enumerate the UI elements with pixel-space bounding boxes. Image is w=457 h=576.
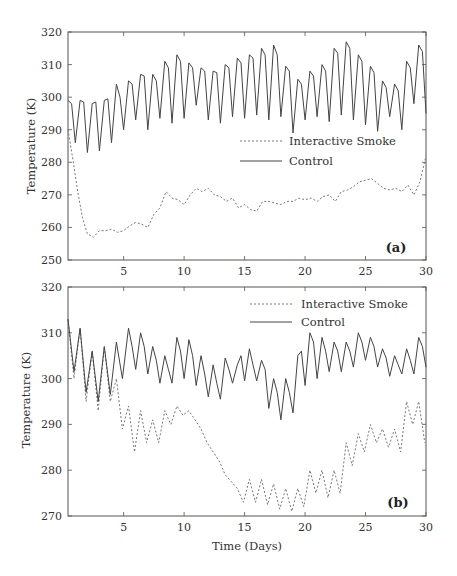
y-tick-label: 270 <box>41 189 62 202</box>
y-tick-label: 320 <box>41 281 62 294</box>
x-tick-label: 10 <box>177 265 191 278</box>
legend-b: Interactive Smoke Control <box>250 297 408 329</box>
y-tick-label: 270 <box>41 510 62 523</box>
y-tick-label: 280 <box>41 156 62 169</box>
legend-label-smoke-a: Interactive Smoke <box>289 134 396 148</box>
x-tick-label: 5 <box>120 265 127 278</box>
x-tick-label: 25 <box>359 521 373 534</box>
x-tick-label: 30 <box>419 521 433 534</box>
legend-label-smoke-b: Interactive Smoke <box>301 297 408 311</box>
x-tick-label: 20 <box>298 521 312 534</box>
panel-a: 250260270280290300310320 51015202530 Tem… <box>24 26 433 278</box>
y-tick-label: 310 <box>41 59 62 72</box>
panel-label-b: (b) <box>387 495 408 510</box>
x-tick-label: 20 <box>298 265 312 278</box>
y-tick-label: 290 <box>41 124 62 137</box>
panel-label-a: (a) <box>386 240 407 255</box>
y-tick-label: 260 <box>41 221 62 234</box>
y-axis-label-b: Temperature (K) <box>19 352 33 449</box>
plot-frame-b <box>68 287 426 516</box>
y-tick-label: 250 <box>41 254 62 267</box>
series-control <box>68 319 426 420</box>
x-tick-label: 15 <box>238 265 252 278</box>
y-tick-label: 290 <box>41 418 62 431</box>
x-tick-label: 15 <box>238 521 252 534</box>
legend-label-control-a: Control <box>289 154 333 168</box>
x-tick-label: 5 <box>120 521 127 534</box>
y-axis-label-a: Temperature (K) <box>24 98 38 195</box>
x-tick-label: 30 <box>419 265 433 278</box>
x-axis-label: Time (Days) <box>212 539 282 553</box>
panel-b: 270280290300310320 51015202530 Temperatu… <box>19 281 433 534</box>
y-ticks-b: 270280290300310320 <box>41 281 426 523</box>
x-tick-label: 25 <box>359 265 373 278</box>
y-tick-label: 300 <box>41 91 62 104</box>
y-tick-label: 320 <box>41 26 62 39</box>
figure: 250260270280290300310320 51015202530 Tem… <box>0 0 457 576</box>
y-tick-label: 310 <box>41 327 62 340</box>
y-tick-label: 280 <box>41 464 62 477</box>
series-lines-b <box>68 319 426 511</box>
series-interactive-smoke <box>68 319 425 511</box>
legend-a: Interactive Smoke Control <box>240 134 396 168</box>
legend-label-control-b: Control <box>301 315 345 329</box>
y-tick-label: 300 <box>41 373 62 386</box>
x-tick-label: 10 <box>177 521 191 534</box>
